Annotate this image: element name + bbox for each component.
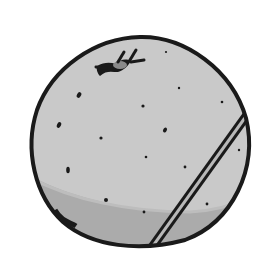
- orange-illustration: [0, 0, 258, 270]
